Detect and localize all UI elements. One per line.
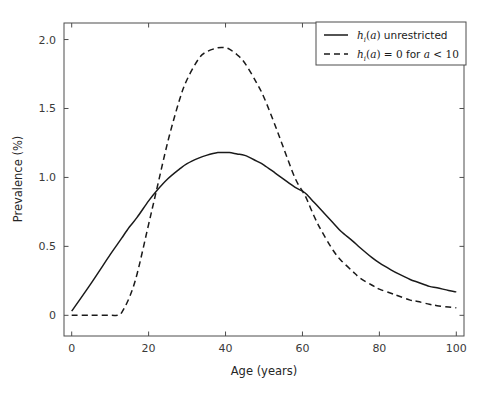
y-tick-label: 0.5 — [39, 240, 57, 253]
y-tick-label: 2.0 — [39, 34, 57, 47]
x-tick-label: 60 — [295, 342, 309, 355]
y-tick-label: 0 — [49, 309, 56, 322]
x-axis-label: Age (years) — [231, 364, 298, 378]
figure-container: 020406080100 00.51.01.52.0 Age (years) P… — [0, 0, 491, 398]
chart-legend: hi(a) unrestricted hi(a) = 0 for a < 10 — [316, 22, 466, 65]
y-tick-label: 1.0 — [39, 171, 57, 184]
x-tick-label: 80 — [372, 342, 386, 355]
y-axis-label: Prevalence (%) — [11, 136, 25, 223]
x-tick-label: 100 — [446, 342, 467, 355]
chart-svg: 020406080100 00.51.01.52.0 Age (years) P… — [0, 0, 491, 398]
x-tick-label: 40 — [219, 342, 233, 355]
y-tick-label: 1.5 — [39, 102, 57, 115]
x-tick-label: 20 — [142, 342, 156, 355]
x-tick-label: 0 — [68, 342, 75, 355]
